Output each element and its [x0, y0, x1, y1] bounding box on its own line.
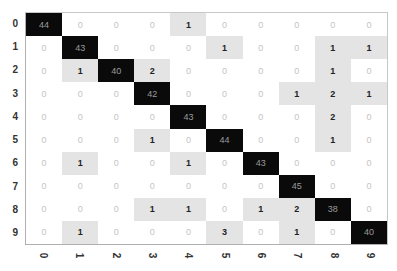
heatmap-cell: 43: [62, 36, 98, 59]
heatmap-cell: 38: [315, 198, 351, 221]
heatmap-cell: 0: [351, 152, 387, 175]
heatmap-cell: 0: [134, 221, 170, 244]
y-tick-label: 3: [0, 88, 18, 99]
heatmap-cell: 0: [26, 82, 62, 105]
heatmap-cell: 40: [98, 59, 134, 82]
heatmap-cell: 0: [170, 129, 206, 152]
heatmap-cell: 1: [206, 36, 242, 59]
heatmap-cell: 0: [170, 175, 206, 198]
heatmap-cell: 0: [351, 129, 387, 152]
heatmap-cell: 0: [170, 36, 206, 59]
heatmap-cell: 0: [243, 221, 279, 244]
heatmap-cell: 0: [206, 105, 242, 128]
heatmap-cell: 1: [243, 198, 279, 221]
heatmap-cell: 1: [170, 152, 206, 175]
heatmap-cell: 0: [351, 59, 387, 82]
heatmap-cell: 0: [62, 105, 98, 128]
heatmap-cell: 1: [315, 129, 351, 152]
heatmap-cell: 1: [134, 129, 170, 152]
heatmap-cell: 0: [170, 82, 206, 105]
heatmap-cell: 2: [315, 105, 351, 128]
heatmap-cell: 0: [62, 198, 98, 221]
x-tick-label: 1: [74, 250, 85, 262]
confusion-matrix-plot: 4400010000004300010011014020000100004200…: [25, 12, 388, 245]
heatmap-cell: 1: [351, 82, 387, 105]
y-tick-label: 0: [0, 18, 18, 29]
heatmap-cell: 0: [206, 59, 242, 82]
heatmap-cell: 0: [243, 129, 279, 152]
heatmap-cell: 0: [134, 13, 170, 36]
heatmap-cell: 0: [26, 36, 62, 59]
heatmap-cell: 1: [170, 198, 206, 221]
heatmap-cell: 0: [279, 129, 315, 152]
heatmap-cell: 0: [134, 36, 170, 59]
heatmap-cell: 0: [62, 13, 98, 36]
heatmap-cell: 0: [351, 13, 387, 36]
x-tick-label: 9: [364, 250, 375, 262]
x-tick-label: 8: [328, 250, 339, 262]
heatmap-cell: 0: [243, 105, 279, 128]
heatmap-cell: 2: [279, 198, 315, 221]
heatmap-cell: 0: [62, 175, 98, 198]
heatmap-cell: 0: [62, 129, 98, 152]
heatmap-cell: 44: [206, 129, 242, 152]
heatmap-cell: 0: [351, 175, 387, 198]
y-tick-label: 2: [0, 64, 18, 75]
heatmap-cell: 0: [243, 13, 279, 36]
heatmap-cell: 40: [351, 221, 387, 244]
y-tick-label: 7: [0, 181, 18, 192]
heatmap-cell: 1: [351, 36, 387, 59]
heatmap-cell: 0: [243, 36, 279, 59]
heatmap-cell: 0: [206, 13, 242, 36]
heatmap-cell: 1: [62, 59, 98, 82]
x-tick-label: 3: [147, 250, 158, 262]
heatmap-cell: 1: [62, 152, 98, 175]
heatmap-cell: 0: [134, 105, 170, 128]
heatmap-cell: 0: [206, 175, 242, 198]
heatmap-cell: 1: [279, 82, 315, 105]
heatmap-cell: 0: [98, 175, 134, 198]
heatmap-cell: 43: [243, 152, 279, 175]
heatmap-cell: 0: [98, 152, 134, 175]
x-tick-label: 6: [255, 250, 266, 262]
heatmap-cell: 0: [98, 13, 134, 36]
heatmap-cell: 0: [315, 152, 351, 175]
heatmap-cell: 0: [26, 105, 62, 128]
y-tick-label: 4: [0, 111, 18, 122]
x-tick-label: 7: [292, 250, 303, 262]
heatmap-cell: 1: [62, 221, 98, 244]
heatmap-cell: 0: [26, 221, 62, 244]
heatmap-cell: 0: [351, 198, 387, 221]
heatmap-cell: 0: [98, 82, 134, 105]
heatmap-grid: 4400010000004300010011014020000100004200…: [26, 13, 387, 244]
heatmap-cell: 43: [170, 105, 206, 128]
heatmap-cell: 0: [243, 59, 279, 82]
heatmap-cell: 1: [315, 36, 351, 59]
x-tick-label: 0: [38, 250, 49, 262]
heatmap-cell: 0: [62, 82, 98, 105]
heatmap-cell: 0: [98, 129, 134, 152]
heatmap-cell: 0: [26, 175, 62, 198]
heatmap-cell: 2: [134, 59, 170, 82]
y-tick-label: 1: [0, 41, 18, 52]
heatmap-cell: 0: [26, 129, 62, 152]
x-tick-label: 4: [183, 250, 194, 262]
heatmap-cell: 0: [206, 152, 242, 175]
heatmap-cell: 0: [134, 175, 170, 198]
heatmap-cell: 0: [98, 105, 134, 128]
heatmap-cell: 0: [134, 152, 170, 175]
heatmap-cell: 0: [26, 59, 62, 82]
heatmap-cell: 0: [279, 105, 315, 128]
heatmap-cell: 2: [315, 82, 351, 105]
y-tick-label: 6: [0, 157, 18, 168]
y-tick-label: 9: [0, 227, 18, 238]
heatmap-cell: 0: [243, 82, 279, 105]
heatmap-cell: 3: [206, 221, 242, 244]
heatmap-cell: 0: [315, 175, 351, 198]
heatmap-cell: 0: [279, 13, 315, 36]
y-tick-label: 8: [0, 204, 18, 215]
heatmap-cell: 0: [206, 82, 242, 105]
heatmap-cell: 0: [26, 152, 62, 175]
heatmap-cell: 1: [134, 198, 170, 221]
heatmap-cell: 0: [98, 36, 134, 59]
